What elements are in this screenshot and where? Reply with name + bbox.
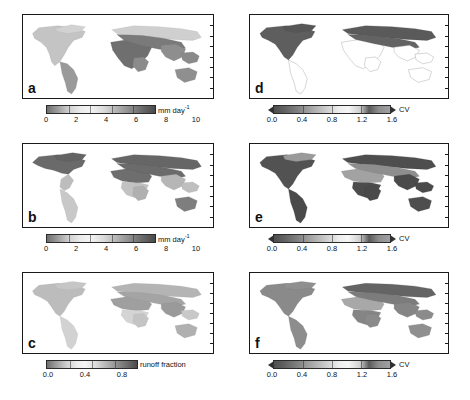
- world-map-a: [23, 15, 213, 98]
- colorbar-ticklabels-a: 0 2 4 6 8 10: [46, 115, 196, 125]
- world-map-e: [250, 144, 448, 227]
- colorbar-ticklabels-f: 0.0 0.4 0.8 1.2 1.6: [267, 370, 437, 380]
- panel-f: f CV 0.0 0.4 0.8 1.2: [249, 272, 449, 354]
- world-map-c: [23, 273, 213, 353]
- panel-label-c: c: [28, 336, 36, 350]
- figure-root: a mm day-1 0 2 4 6 8 10: [0, 0, 470, 400]
- colorbar-f: CV 0.0 0.4 0.8 1.2 1.6: [267, 360, 437, 380]
- map-frame-e: e: [249, 143, 449, 228]
- panel-label-d: d: [255, 81, 264, 95]
- colorbar-gradient-c: [46, 360, 138, 369]
- colorbar-unit-a: mm day-1: [158, 105, 190, 114]
- colorbar-ticklabels-e: 0.0 0.4 0.8 1.2 1.6: [267, 244, 437, 254]
- map-canvas-f: [250, 273, 448, 353]
- colorbar-unit-c: runoff fraction: [140, 361, 186, 369]
- colorbar-unit-b: mm day-1: [158, 234, 190, 243]
- map-frame-c: c: [22, 272, 214, 354]
- colorbar-arrow-left-e: [268, 235, 274, 243]
- map-ticks-bottom-f: [250, 353, 448, 354]
- map-canvas-c: [23, 273, 213, 353]
- colorbar-unit-d: CV: [399, 106, 409, 114]
- panel-c: c runoff fraction 0.0 0.4 0.8: [22, 272, 214, 354]
- figure-caption: [8, 392, 462, 400]
- colorbar-ticklabels-c: 0.0 0.4 0.8: [46, 370, 211, 380]
- map-ticks-bottom-c: [23, 353, 213, 354]
- map-frame-b: b: [22, 143, 214, 228]
- panel-label-b: b: [28, 210, 37, 224]
- panel-e: e CV 0.0 0.4 0.8 1.2: [249, 143, 449, 228]
- colorbar-gradient-e: [273, 234, 391, 243]
- colorbar-gradient-f: [273, 360, 391, 369]
- colorbar-e: CV 0.0 0.4 0.8 1.2 1.6: [267, 234, 437, 254]
- world-map-f: [250, 273, 448, 353]
- colorbar-ticklabels-b: 0 2 4 6 8 10: [46, 244, 196, 254]
- colorbar-unit-e: CV: [399, 235, 409, 243]
- colorbar-ticklabels-d: 0.0 0.4 0.8 1.2 1.6: [267, 115, 437, 125]
- map-frame-a: a: [22, 14, 214, 99]
- panel-label-a: a: [28, 81, 36, 95]
- colorbar-arrow-right-d: [390, 106, 396, 114]
- panel-d: d CV 0.0 0.4 0.8 1.2: [249, 14, 449, 99]
- colorbar-gradient-b: [46, 234, 156, 243]
- map-ticks-bottom-e: [250, 227, 448, 228]
- panel-a: a mm day-1 0 2 4 6 8 10: [22, 14, 214, 99]
- colorbar-arrow-right-e: [390, 235, 396, 243]
- colorbar-arrow-right-f: [390, 361, 396, 369]
- map-ticks-bottom-d: [250, 98, 448, 99]
- map-canvas-b: [23, 144, 213, 227]
- colorbar-b: mm day-1 0 2 4 6 8 10: [46, 234, 196, 254]
- world-map-b: [23, 144, 213, 227]
- map-ticks-bottom-a: [23, 98, 213, 99]
- panel-label-f: f: [255, 336, 260, 350]
- colorbar-arrow-left-f: [268, 361, 274, 369]
- colorbar-unit-f: CV: [399, 361, 409, 369]
- panel-label-e: e: [255, 210, 263, 224]
- colorbar-a: mm day-1 0 2 4 6 8 10: [46, 105, 196, 125]
- map-canvas-e: [250, 144, 448, 227]
- world-map-d: [250, 15, 448, 98]
- colorbar-d: CV 0.0 0.4 0.8 1.2 1.6: [267, 105, 437, 125]
- map-canvas-a: [23, 15, 213, 98]
- colorbar-gradient-a: [46, 105, 156, 114]
- panel-b: b mm day-1 0 2 4 6 8 10: [22, 143, 214, 228]
- map-frame-d: d: [249, 14, 449, 99]
- map-frame-f: f: [249, 272, 449, 354]
- colorbar-arrow-left-d: [268, 106, 274, 114]
- colorbar-c: runoff fraction 0.0 0.4 0.8: [46, 360, 211, 380]
- colorbar-gradient-d: [273, 105, 391, 114]
- map-ticks-bottom-b: [23, 227, 213, 228]
- map-canvas-d: [250, 15, 448, 98]
